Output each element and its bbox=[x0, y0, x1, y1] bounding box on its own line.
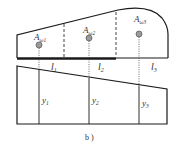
area-label-3: Aω3 bbox=[133, 14, 146, 25]
centroid-3-icon bbox=[136, 31, 142, 37]
area-label-2: Aω2 bbox=[82, 25, 95, 36]
influence-line-diagram: Aω1 Aω2 Aω3 l1 l2 l3 y1 y2 y3 b ) bbox=[0, 0, 178, 152]
ordinate-label-2: y2 bbox=[91, 95, 99, 106]
segment-label-3: l3 bbox=[151, 61, 157, 73]
figure-caption: b ) bbox=[85, 133, 94, 142]
area-label-1: Aω1 bbox=[33, 32, 46, 43]
segment-label-2: l2 bbox=[98, 61, 104, 73]
ordinate-label-1: y1 bbox=[41, 95, 49, 106]
ordinate-label-3: y3 bbox=[141, 98, 149, 109]
